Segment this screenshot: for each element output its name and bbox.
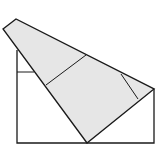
folded-paper-diagram [0,0,160,150]
shaded-folded-flap [3,19,154,143]
